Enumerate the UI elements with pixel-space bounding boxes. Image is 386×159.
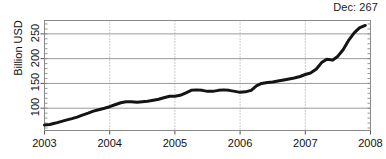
horizontal-gridlines	[45, 34, 371, 108]
vertical-gridlines	[110, 21, 306, 131]
y-tick-label: 200	[29, 45, 41, 71]
y-tick-label: 150	[29, 69, 41, 95]
y-tick-label: 250	[29, 20, 41, 46]
y-axis-title: Billion USD	[12, 2, 24, 94]
plot-frame-border	[45, 21, 371, 131]
line-chart-plot	[0, 0, 386, 159]
y-tick-label: 100	[29, 94, 41, 120]
x-tick-label: 2004	[90, 137, 130, 149]
x-tick-label: 2007	[285, 137, 325, 149]
axis-major-ticks	[41, 34, 371, 135]
x-tick-label: 2006	[220, 137, 260, 149]
chart-container: Dec: 267 Billion USD 100150200250 200320…	[0, 0, 386, 159]
x-tick-label: 2008	[351, 137, 386, 149]
last-value-annotation: Dec: 267	[333, 1, 378, 13]
x-tick-label: 2003	[25, 137, 65, 149]
x-tick-label: 2005	[155, 137, 195, 149]
data-series-line	[45, 25, 366, 125]
